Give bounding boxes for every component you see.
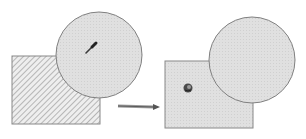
paint-bucket-icon [184, 84, 193, 93]
arrow-head-icon [153, 104, 160, 110]
after-group [165, 17, 295, 128]
source-circle [56, 12, 142, 98]
arrow [118, 104, 160, 110]
diagram-canvas [0, 0, 306, 139]
target-circle [209, 17, 295, 103]
